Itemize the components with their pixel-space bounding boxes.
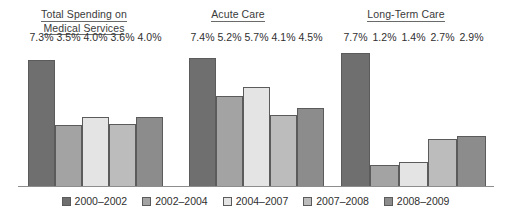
bar: 7.7% <box>341 53 370 186</box>
group-title-line: Total Spending on <box>41 8 127 22</box>
chart-legend: 2000–20022002–20042004–20072007–20082008… <box>0 196 511 207</box>
bar-value-label: 2.9% <box>460 32 484 43</box>
plot-area: 7.3%3.5%4.0%3.6%4.0%7.4%5.2%5.7%4.1%4.5%… <box>0 44 511 187</box>
legend-label: 2008–2009 <box>397 196 450 207</box>
bar-column: 4.0% <box>136 44 163 186</box>
bar-value-label: 7.3% <box>30 32 54 43</box>
bar: 7.3% <box>28 60 55 186</box>
group-title-3: Long-Term Care <box>316 8 496 22</box>
bar: 1.4% <box>399 162 428 186</box>
legend-swatch-icon <box>303 197 312 206</box>
bar-value-label: 3.6% <box>111 32 135 43</box>
bar-column: 3.5% <box>55 44 82 186</box>
bar: 7.4% <box>189 58 216 186</box>
bar-column: 5.7% <box>243 44 270 186</box>
bar-column: 5.2% <box>216 44 243 186</box>
legend-item-2[interactable]: 2002–2004 <box>142 196 208 207</box>
bar: 3.5% <box>55 125 82 186</box>
bar-value-label: 5.7% <box>245 32 269 43</box>
grouped-bar-chart: Total Spending onMedical ServicesAcute C… <box>0 0 511 224</box>
legend-item-4[interactable]: 2007–2008 <box>303 196 369 207</box>
legend-label: 2000–2002 <box>75 196 128 207</box>
legend-label: 2004–2007 <box>236 196 289 207</box>
bar-column: 7.4% <box>189 44 216 186</box>
group-title-2: Acute Care <box>168 8 308 22</box>
bar: 2.7% <box>428 139 457 186</box>
bar-value-label: 3.5% <box>57 32 81 43</box>
bar: 5.2% <box>216 96 243 186</box>
bar-value-label: 1.4% <box>402 32 426 43</box>
bar-value-label: 4.0% <box>84 32 108 43</box>
bar-value-label: 4.0% <box>138 32 162 43</box>
legend-swatch-icon <box>223 197 232 206</box>
bar-column: 7.3% <box>28 44 55 186</box>
bar-value-label: 2.7% <box>431 32 455 43</box>
bar-column: 1.2% <box>370 44 399 186</box>
bar: 2.9% <box>457 136 486 186</box>
bar: 4.1% <box>270 115 297 186</box>
bar-column: 4.1% <box>270 44 297 186</box>
bar-column: 3.6% <box>109 44 136 186</box>
bar-value-label: 4.1% <box>272 32 296 43</box>
bar-value-label: 5.2% <box>218 32 242 43</box>
legend-swatch-icon <box>142 197 151 206</box>
legend-item-3[interactable]: 2004–2007 <box>223 196 289 207</box>
bar-column: 1.4% <box>399 44 428 186</box>
bar-value-label: 7.4% <box>191 32 215 43</box>
bar-column: 2.9% <box>457 44 486 186</box>
bar: 1.2% <box>370 165 399 186</box>
bar-group-bars: 7.3%3.5%4.0%3.6%4.0% <box>28 44 163 186</box>
bar-column: 7.7% <box>341 44 370 186</box>
bar: 4.5% <box>297 108 324 186</box>
bar: 4.0% <box>82 117 109 186</box>
bar-column: 4.0% <box>82 44 109 186</box>
bar-column: 2.7% <box>428 44 457 186</box>
legend-label: 2007–2008 <box>316 196 369 207</box>
legend-swatch-icon <box>62 197 71 206</box>
legend-item-5[interactable]: 2008–2009 <box>384 196 450 207</box>
bar-value-label: 7.7% <box>344 32 368 43</box>
bar-column: 4.5% <box>297 44 324 186</box>
bar-group-bars: 7.4%5.2%5.7%4.1%4.5% <box>189 44 324 186</box>
bar-group-bars: 7.7%1.2%1.4%2.7%2.9% <box>341 44 486 186</box>
group-title-line: Acute Care <box>211 8 265 22</box>
bar-value-label: 4.5% <box>299 32 323 43</box>
bar: 5.7% <box>243 87 270 186</box>
bar-value-label: 1.2% <box>373 32 397 43</box>
bar: 4.0% <box>136 117 163 186</box>
legend-swatch-icon <box>384 197 393 206</box>
legend-item-1[interactable]: 2000–2002 <box>62 196 128 207</box>
group-title-line: Long-Term Care <box>367 8 444 22</box>
bar: 3.6% <box>109 124 136 186</box>
legend-label: 2002–2004 <box>155 196 208 207</box>
axis-baseline <box>18 186 494 187</box>
